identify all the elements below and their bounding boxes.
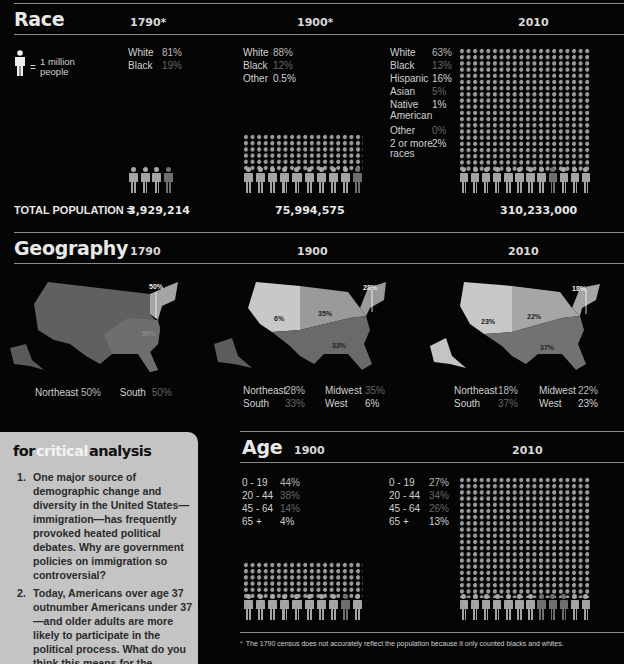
legend-text: 1 million people	[40, 57, 75, 77]
race-2010-pictograph	[459, 48, 591, 193]
age-title: Age	[242, 436, 282, 458]
race-rule	[14, 34, 624, 35]
geography-title: Geography	[14, 237, 128, 259]
race-title: Race	[14, 8, 64, 30]
geo-year-1790: 1790	[130, 245, 161, 258]
footnote-rule	[240, 632, 624, 633]
geo-1790-legend: Northeast50% South50%	[35, 386, 172, 399]
person-icon	[14, 50, 26, 76]
race-1900-pictograph	[243, 134, 363, 193]
geo-rule	[14, 263, 624, 264]
map-2010-west-label: 23%	[481, 318, 495, 325]
age-1900-labels: 0 - 1944% 20 - 4438% 45 - 6414% 65 +4%	[242, 476, 300, 528]
geo-year-2010: 2010	[508, 245, 539, 258]
geo-top-rule	[14, 232, 624, 233]
age-top-rule	[240, 431, 624, 432]
critical-analysis-box: forcriticalanalysis 1.One major source o…	[0, 432, 198, 664]
map-2010-midwest-label: 22%	[527, 313, 541, 320]
map-1900: 6% 35% 28% 33%	[200, 278, 396, 374]
race-2010-labels: White63% Black13% Hispanic16% Asian5% Na…	[390, 46, 452, 159]
legend-equals: =	[30, 61, 36, 74]
race-year-2010: 2010	[518, 16, 549, 29]
top-rule	[14, 3, 624, 4]
footnote-text: The 1790 census does not accurately refl…	[246, 640, 564, 647]
map-2010-south-label: 37%	[540, 344, 554, 351]
age-1900-pictograph	[243, 562, 363, 620]
total-population-label: TOTAL POPULATION =	[14, 204, 133, 216]
map-1790: 50% 50%	[0, 278, 180, 374]
footnote-star: *	[240, 640, 243, 647]
age-rule	[240, 462, 624, 463]
total-1900: 75,994,575	[275, 204, 345, 217]
age-2010-pictograph	[459, 477, 591, 620]
question-1: 1.One major source of demographic change…	[17, 470, 193, 582]
map-1900-northeast-label: 28%	[363, 284, 377, 291]
geo-2010-legend: Northeast18%Midwest22% South37%West23%	[454, 384, 598, 410]
race-year-1790: 1790*	[130, 16, 166, 29]
map-1790-northeast-label: 50%	[149, 283, 163, 290]
age-year-2010: 2010	[512, 444, 543, 457]
footnote: *The 1790 census does not accurately ref…	[240, 640, 564, 647]
legend-text-line2: people	[40, 67, 75, 77]
geo-year-1900: 1900	[297, 245, 328, 258]
age-2010-labels: 0 - 1927% 20 - 4434% 45 - 6426% 65 +13%	[389, 476, 449, 528]
map-1900-midwest-label: 35%	[318, 310, 332, 317]
map-1900-west-label: 6%	[274, 315, 284, 322]
race-1900-labels: White88% Black12% Other0.5%	[243, 46, 296, 85]
total-1790: 3,929,214	[128, 204, 190, 217]
race-1790-labels: White81% Black19%	[128, 46, 182, 72]
map-1790-south-label: 50%	[142, 330, 156, 337]
question-2: 2.Today, Americans over age 37 outnumber…	[17, 586, 193, 664]
race-1790-pictograph	[128, 167, 174, 193]
geo-1900-legend: Northeast28%Midwest35% South33%West6%	[243, 384, 385, 410]
map-2010: 23% 22% 18% 37%	[430, 278, 624, 374]
total-2010: 310,233,000	[500, 204, 577, 217]
map-2010-northeast-label: 18%	[572, 285, 586, 292]
critical-analysis-title: forcriticalanalysis	[13, 443, 151, 459]
critical-analysis-list: 1.One major source of demographic change…	[17, 470, 193, 664]
map-1900-south-label: 33%	[332, 342, 346, 349]
race-year-1900: 1900*	[297, 16, 333, 29]
age-year-1900: 1900	[294, 444, 325, 457]
